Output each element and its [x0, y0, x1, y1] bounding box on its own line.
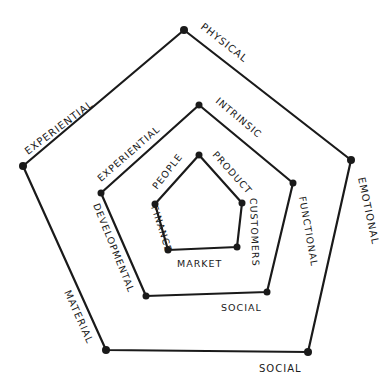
outer-label-experiential: EXPERIENTIAL — [23, 98, 96, 157]
middle-label-developmental: DEVELOPMENTAL — [91, 202, 137, 294]
inner-label-product: PRODUCT — [211, 149, 255, 196]
middle-ring: INTRINSIC EXPERIENTIAL FUNCTIONAL SOCIAL… — [91, 95, 320, 313]
middle-label-experiential: EXPERIENTIAL — [95, 123, 162, 183]
middle-vertex-bottom-left — [143, 293, 150, 300]
middle-label-functional: FUNCTIONAL — [297, 195, 320, 267]
middle-label-intrinsic: INTRINSIC — [214, 95, 264, 140]
outer-label-physical: PHYSICAL — [199, 21, 250, 64]
inner-label-finance: FINANCE — [149, 204, 174, 254]
middle-label-social: SOCIAL — [221, 302, 262, 313]
outer-label-emotional: EMOTIONAL — [356, 176, 381, 245]
inner-vertex-bottom-right — [234, 244, 241, 251]
outer-vertex-bottom-left — [102, 346, 110, 354]
inner-label-people: PEOPLE — [150, 151, 185, 191]
nested-pentagon-diagram: PHYSICAL EXPERIENTIAL EMOTIONAL SOCIAL M… — [0, 0, 386, 390]
inner-vertex-right — [239, 200, 246, 207]
outer-label-social: SOCIAL — [259, 363, 302, 374]
inner-label-market: MARKET — [177, 258, 222, 269]
outer-ring: PHYSICAL EXPERIENTIAL EMOTIONAL SOCIAL M… — [19, 21, 381, 374]
outer-vertex-bottom-right — [304, 348, 312, 356]
middle-vertex-top — [196, 102, 203, 109]
inner-ring: PRODUCT PEOPLE CUSTOMERS MARKET FINANCE — [149, 149, 261, 269]
outer-vertex-top — [180, 26, 188, 34]
inner-vertex-top — [196, 152, 203, 159]
middle-vertex-right — [290, 180, 297, 187]
inner-label-customers: CUSTOMERS — [248, 198, 261, 267]
middle-vertex-left — [98, 190, 105, 197]
outer-vertex-left — [19, 162, 27, 170]
outer-vertex-right — [347, 156, 355, 164]
middle-vertex-bottom-right — [264, 289, 271, 296]
